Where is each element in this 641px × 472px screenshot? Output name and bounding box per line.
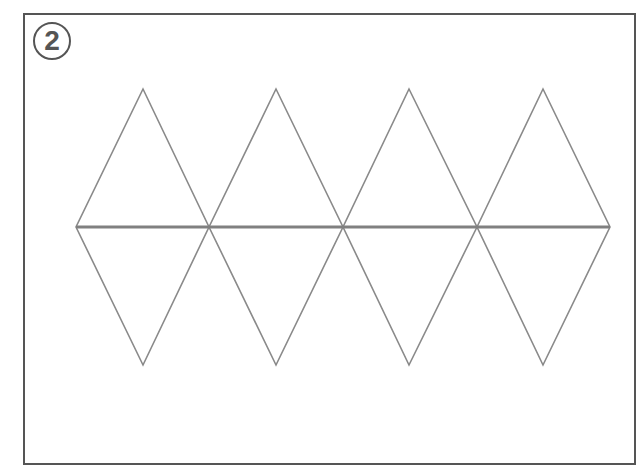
triangle-net-diagram [0,0,641,472]
